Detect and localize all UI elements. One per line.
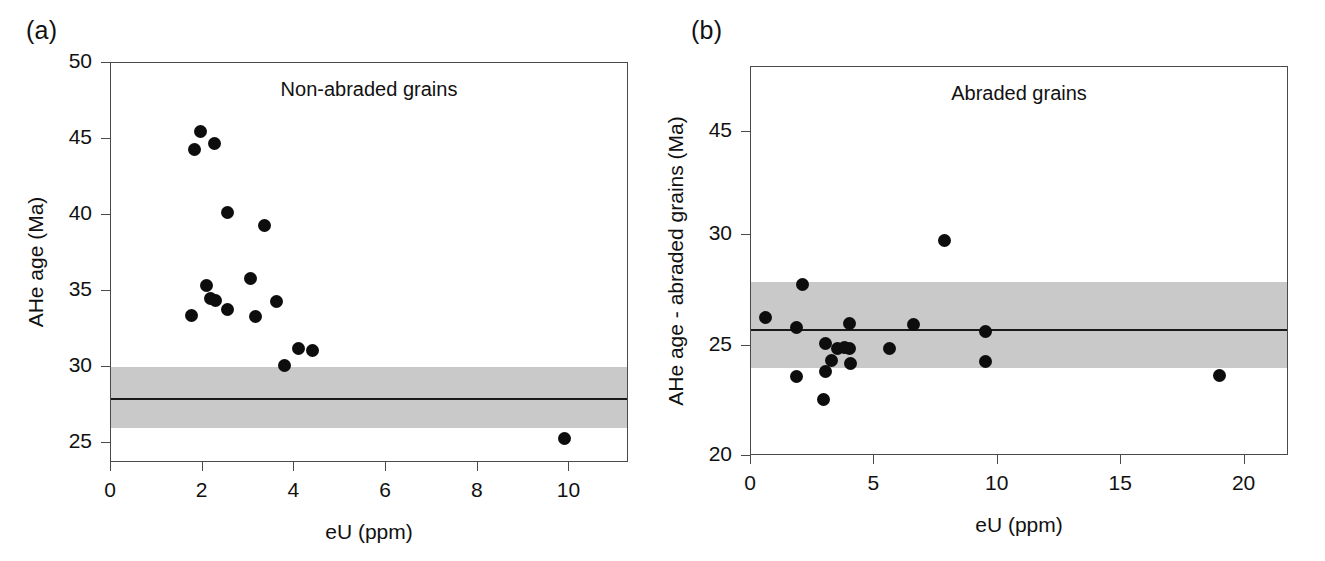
panel-b-title: Abraded grains xyxy=(951,82,1087,105)
data-point xyxy=(979,325,992,338)
y-axis-tick xyxy=(741,455,750,456)
panel-b-abraded: (b) Abraded grains AHe age - abraded gra… xyxy=(663,0,1325,561)
x-axis-tick-label: 10 xyxy=(538,478,598,502)
y-axis-tick xyxy=(101,138,110,139)
data-point xyxy=(938,234,951,247)
data-point xyxy=(790,321,803,334)
y-axis-tick xyxy=(101,366,110,367)
y-axis-tick-label: 30 xyxy=(682,221,732,245)
data-point xyxy=(208,137,221,150)
y-axis-tick-label: 25 xyxy=(42,429,92,453)
x-axis-tick-label: 2 xyxy=(172,478,232,502)
x-axis-tick xyxy=(568,462,569,471)
data-point xyxy=(844,357,857,370)
x-axis-tick xyxy=(873,455,874,464)
x-axis-tick xyxy=(385,462,386,471)
x-axis-tick-label: 15 xyxy=(1090,471,1150,495)
data-point xyxy=(306,344,319,357)
panel-b-tag: (b) xyxy=(691,16,722,45)
data-point xyxy=(194,125,207,138)
x-axis-tick-label: 8 xyxy=(447,478,507,502)
y-axis-tick-label: 45 xyxy=(682,118,732,142)
x-axis-tick xyxy=(1244,455,1245,464)
x-axis-tick xyxy=(750,455,751,464)
x-axis-tick xyxy=(110,462,111,471)
x-axis-tick-label: 6 xyxy=(355,478,415,502)
y-axis-tick-label: 30 xyxy=(42,353,92,377)
y-axis-tick-label: 40 xyxy=(42,201,92,225)
y-axis-tick-label: 20 xyxy=(682,442,732,466)
panel-a-x-axis-title: eU (ppm) xyxy=(325,520,413,544)
y-axis-tick xyxy=(101,290,110,291)
panel-a-tag: (a) xyxy=(26,16,57,45)
y-axis-tick xyxy=(741,131,750,132)
x-axis-tick-label: 4 xyxy=(263,478,323,502)
x-axis-tick xyxy=(997,455,998,464)
data-point xyxy=(258,219,271,232)
data-point xyxy=(209,294,222,307)
data-point xyxy=(270,295,283,308)
data-point xyxy=(819,337,832,350)
mean-reference-line xyxy=(751,329,1287,331)
data-point xyxy=(200,279,213,292)
y-axis-tick xyxy=(741,234,750,235)
panel-a-title: Non-abraded grains xyxy=(281,78,458,101)
data-point xyxy=(1213,369,1226,382)
panel-b-y-axis-title: AHe age - abraded grains (Ma) xyxy=(664,116,688,405)
data-point xyxy=(185,309,198,322)
data-point xyxy=(843,342,856,355)
y-axis-tick xyxy=(101,62,110,63)
y-axis-tick-label: 45 xyxy=(42,125,92,149)
figure-two-panel-scatter: (a) Non-abraded grains AHe age (Ma) eU (… xyxy=(0,0,1325,561)
panel-b-x-axis-title: eU (ppm) xyxy=(975,513,1063,537)
x-axis-tick xyxy=(477,462,478,471)
data-point xyxy=(819,365,832,378)
data-point xyxy=(883,342,896,355)
data-point xyxy=(244,272,257,285)
x-axis-tick xyxy=(293,462,294,471)
x-axis-tick xyxy=(202,462,203,471)
data-point xyxy=(817,393,830,406)
data-point xyxy=(558,432,571,445)
panel-a-non-abraded: (a) Non-abraded grains AHe age (Ma) eU (… xyxy=(0,0,663,561)
x-axis-tick xyxy=(1120,455,1121,464)
x-axis-tick-label: 20 xyxy=(1214,471,1274,495)
data-point xyxy=(221,206,234,219)
x-axis-tick-label: 5 xyxy=(843,471,903,495)
data-point xyxy=(249,310,262,323)
panel-b-plot-frame xyxy=(750,66,1288,455)
y-axis-tick xyxy=(741,345,750,346)
data-point xyxy=(221,303,234,316)
x-axis-tick-label: 0 xyxy=(720,471,780,495)
data-point xyxy=(759,311,772,324)
panel-a-plot-frame xyxy=(110,62,628,462)
y-axis-tick xyxy=(101,442,110,443)
data-point xyxy=(979,355,992,368)
y-axis-tick xyxy=(101,214,110,215)
x-axis-tick-label: 10 xyxy=(967,471,1027,495)
y-axis-tick-label: 50 xyxy=(42,49,92,73)
data-point xyxy=(790,370,803,383)
data-point xyxy=(188,143,201,156)
y-axis-tick-label: 35 xyxy=(42,277,92,301)
y-axis-tick-label: 25 xyxy=(682,332,732,356)
data-point xyxy=(278,359,291,372)
data-point xyxy=(292,342,305,355)
mean-reference-line xyxy=(111,398,627,400)
x-axis-tick-label: 0 xyxy=(80,478,140,502)
